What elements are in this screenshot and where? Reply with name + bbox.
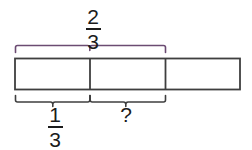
top-brace-label: 2 3 <box>80 6 106 52</box>
bottom-right-brace-label: ? <box>113 104 139 125</box>
fraction-bar <box>15 59 240 90</box>
bottom-left-brace-label-numerator: 1 <box>49 104 61 125</box>
bottom-left-brace-label-denominator: 3 <box>49 129 61 150</box>
fraction-bar-diagram: 2 3 1 3 ? <box>0 0 252 150</box>
diagram-canvas <box>0 0 252 150</box>
top-brace-label-numerator: 2 <box>87 6 99 27</box>
top-brace-label-denominator: 3 <box>87 31 99 52</box>
bottom-left-brace-label: 1 3 <box>42 104 68 150</box>
bar-outline <box>15 59 240 90</box>
